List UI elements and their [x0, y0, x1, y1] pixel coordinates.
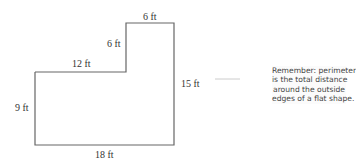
label-top-edge: 6 ft	[143, 11, 157, 23]
label-inner-horizontal-edge: 12 ft	[72, 58, 91, 70]
perimeter-reminder-callout: Remember: perimeter is the total distanc…	[272, 66, 346, 104]
callout-line: is the total distance	[272, 75, 346, 84]
callout-line: edges of a flat shape.	[272, 94, 346, 103]
label-inner-vertical-edge: 6 ft	[107, 38, 121, 50]
l-shape-outline	[35, 23, 174, 145]
label-right-edge: 15 ft	[181, 78, 200, 90]
label-bottom-edge: 18 ft	[95, 149, 114, 161]
callout-line: around the outside	[272, 85, 346, 94]
callout-line: Remember: perimeter	[272, 66, 346, 75]
label-left-edge: 9 ft	[15, 102, 29, 114]
